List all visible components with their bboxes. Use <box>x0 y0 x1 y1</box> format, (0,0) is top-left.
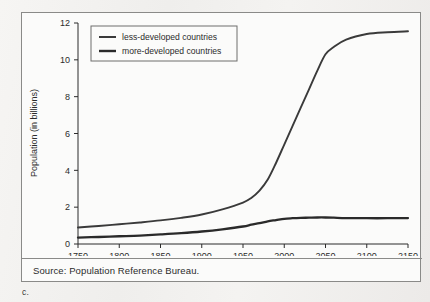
source-text: Source: Population Reference Bureau. <box>33 265 199 276</box>
series-line-more-developed-countries <box>78 217 408 237</box>
y-tick-label: 6 <box>65 129 70 139</box>
x-tick-label: 1800 <box>109 251 129 256</box>
y-tick-label: 10 <box>60 55 70 65</box>
x-tick-label: 1750 <box>68 251 88 256</box>
population-line-chart: 024681012 175018001850190019502000205021… <box>22 13 422 256</box>
legend-label-more-developed: more-developed countries <box>122 46 221 56</box>
y-tick-label: 4 <box>65 166 70 176</box>
figure-caption-label: c. <box>22 287 29 297</box>
x-tick-label: 2100 <box>357 251 377 256</box>
chart-plot-area: 024681012 175018001850190019502000205021… <box>22 13 422 256</box>
legend-label-less-developed: less-developed countries <box>122 32 217 42</box>
y-tick-label: 0 <box>65 239 70 249</box>
y-axis-ticks: 024681012 <box>60 18 78 249</box>
x-tick-label: 1900 <box>192 251 212 256</box>
x-tick-label: 1850 <box>150 251 170 256</box>
x-tick-label: 2150 <box>398 251 418 256</box>
x-tick-label: 1950 <box>233 251 253 256</box>
chart-series-group <box>78 31 408 237</box>
y-axis-label: Population (in billions) <box>29 89 39 177</box>
x-tick-label: 2050 <box>315 251 335 256</box>
y-tick-label: 12 <box>60 18 70 28</box>
y-tick-label: 8 <box>65 92 70 102</box>
x-tick-label: 2000 <box>274 251 294 256</box>
source-row: Source: Population Reference Bureau. <box>22 259 422 282</box>
y-tick-label: 2 <box>65 202 70 212</box>
figure-container: 024681012 175018001850190019502000205021… <box>21 12 421 282</box>
chart-legend: less-developed countries more-developed … <box>91 26 237 61</box>
x-axis-ticks: 175018001850190019502000205021002150 <box>68 244 418 256</box>
